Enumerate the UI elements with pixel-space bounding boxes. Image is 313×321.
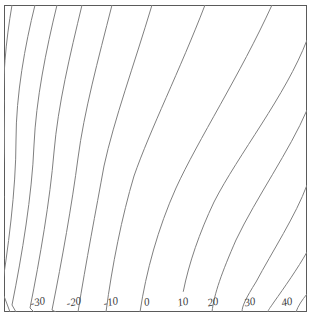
contour-line (0, 196, 4, 232)
contour-plot-figure: -30-20-10010203040 (0, 0, 313, 321)
contour-plot-canvas: -30-20-10010203040 (0, 0, 313, 321)
contour-line (0, 100, 4, 190)
plot-frame (5, 6, 307, 312)
contour-line (0, 258, 4, 284)
